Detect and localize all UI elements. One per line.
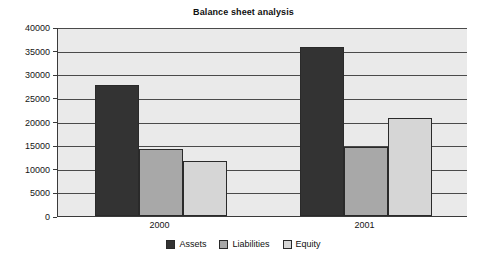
bar-liabilities-2000 [139, 149, 183, 216]
legend-label-equity: Equity [296, 239, 321, 249]
y-axis-tick-label: 40000 [25, 22, 53, 34]
y-axis-tick-label: 35000 [25, 46, 53, 58]
x-axis: 20002001 [57, 220, 467, 236]
y-axis-tick-label: 30000 [25, 69, 53, 81]
chart-title: Balance sheet analysis [0, 7, 487, 17]
y-axis-tick: 40000 [25, 22, 57, 34]
y-axis-tick-label: 25000 [25, 93, 53, 105]
legend-label-liabilities: Liabilities [232, 239, 269, 249]
legend-item-equity[interactable]: Equity [283, 239, 321, 249]
chart-legend: AssetsLiabilitiesEquity [0, 239, 487, 249]
y-axis-tick-label: 5000 [30, 187, 53, 199]
y-axis-tick-label: 0 [45, 211, 53, 223]
y-axis-tick: 30000 [25, 69, 57, 81]
bar-equity-2001 [388, 118, 432, 216]
chart-container: Balance sheet analysis 05000100001500020… [0, 0, 487, 268]
x-axis-label-2001: 2001 [354, 220, 374, 230]
y-axis-tick: 35000 [25, 46, 57, 58]
bar-equity-2000 [183, 161, 227, 216]
y-axis-tick: 5000 [30, 187, 57, 199]
y-axis-tick: 25000 [25, 93, 57, 105]
y-axis-tick-label: 15000 [25, 140, 53, 152]
y-axis-tick: 15000 [25, 140, 57, 152]
y-axis-tick-label: 10000 [25, 164, 53, 176]
bars-layer [58, 28, 467, 216]
legend-label-assets: Assets [179, 239, 206, 249]
bar-assets-2001 [300, 47, 344, 216]
legend-swatch-liabilities [219, 240, 228, 249]
y-axis-tick-label: 20000 [25, 117, 53, 129]
bar-assets-2000 [95, 85, 139, 216]
legend-item-assets[interactable]: Assets [166, 239, 206, 249]
y-axis-tick: 10000 [25, 164, 57, 176]
legend-swatch-assets [166, 240, 175, 249]
x-axis-label-2000: 2000 [149, 220, 169, 230]
plot-area [57, 28, 467, 217]
y-axis: 0500010000150002000025000300003500040000 [0, 28, 57, 217]
bar-liabilities-2001 [344, 147, 388, 216]
legend-item-liabilities[interactable]: Liabilities [219, 239, 269, 249]
y-axis-tick: 20000 [25, 117, 57, 129]
y-axis-tick: 0 [45, 211, 57, 223]
legend-swatch-equity [283, 240, 292, 249]
